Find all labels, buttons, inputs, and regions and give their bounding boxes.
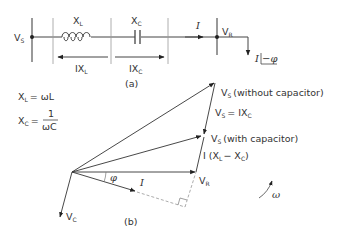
circuit-diagram: VS XL XC IXL IXC I VR I −φ (a) — [14, 15, 277, 89]
vs-eq-label: VS= IXC — [215, 107, 252, 119]
xl-label: XL — [73, 15, 84, 27]
current-phasor — [72, 172, 135, 191]
diagram-canvas: VS XL XC IXL IXC I VR I −φ (a) XL= ωL XC… — [0, 0, 337, 236]
vs-with-phasor — [72, 136, 201, 172]
phi-arc — [104, 172, 106, 182]
phi-label: φ — [110, 172, 117, 183]
svg-text:ωC: ωC — [42, 121, 57, 132]
inductor-icon — [62, 33, 90, 41]
vr-label: VR — [222, 26, 233, 38]
current-label: I — [195, 20, 201, 31]
vs-without-phasor — [72, 83, 214, 172]
omega-label: ω — [272, 189, 280, 200]
load-angle-label: −φ — [262, 53, 277, 64]
xl-equation: XL= ωL — [18, 91, 55, 103]
ixl-label: IXL — [75, 63, 88, 75]
vr-label: VR — [199, 175, 210, 187]
vs-without-label: VS(without capacitor) — [221, 87, 324, 99]
source-node — [30, 35, 34, 39]
right-angle-marker — [178, 198, 187, 205]
xc-label: XC — [131, 15, 142, 27]
ixc-label: IXC — [129, 63, 143, 75]
load-current-label: I — [254, 53, 260, 64]
caption-b: (b) — [124, 216, 137, 227]
svg-text:1: 1 — [48, 108, 54, 119]
vs-label: VS — [14, 32, 25, 44]
i-xl-xc-label: I (XL− XC) — [203, 150, 249, 162]
xc-equation: XC= — [18, 115, 39, 127]
rotation-icon — [259, 181, 272, 198]
vc-label: VC — [66, 211, 77, 223]
ixc-phasor — [204, 83, 215, 134]
caption-a: (a) — [125, 78, 138, 89]
vs-with-label: VS(with capacitor) — [211, 133, 298, 145]
current-phasor-label: I — [139, 177, 145, 188]
receiving-node — [215, 35, 219, 39]
phasor-diagram: VS(without capacitor) VS= IXC VS(with ca… — [60, 83, 324, 227]
reactance-equations: XL= ωL XC= 1 ωC — [18, 91, 58, 132]
